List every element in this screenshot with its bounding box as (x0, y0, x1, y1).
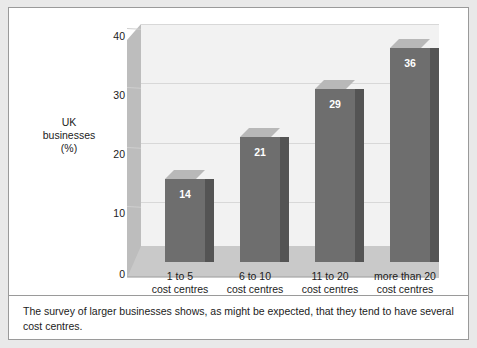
bar-top-face (315, 80, 355, 89)
bar-front-face (390, 48, 430, 262)
y-tick-label-20: 20 (101, 149, 125, 160)
plot-left-wall (127, 24, 141, 278)
bar-1-to-5[interactable]: 14 (165, 24, 205, 262)
bar-top-face (390, 39, 430, 48)
figure-container: UK businesses (%) 0 10 20 30 40 (0, 0, 477, 348)
y-tick-label-30: 30 (101, 90, 125, 101)
caption-divider (9, 295, 468, 296)
gridline-tick-40 (127, 28, 141, 30)
bar-top-face (165, 170, 205, 179)
bar-side-face (355, 89, 364, 262)
bar-chart: UK businesses (%) 0 10 20 30 40 (9, 8, 468, 295)
y-axis-title-line-2: businesses (31, 129, 107, 142)
bar-more-than-20[interactable]: 36 (390, 24, 430, 262)
bar-side-face (430, 48, 439, 262)
bar-6-to-10[interactable]: 21 (240, 24, 280, 262)
y-axis-title-line-1: UK (31, 116, 107, 129)
y-tick-label-10: 10 (101, 208, 125, 219)
y-tick-label-40: 40 (101, 31, 125, 42)
figure-frame: UK businesses (%) 0 10 20 30 40 (8, 7, 469, 340)
y-axis-title: UK businesses (%) (31, 116, 107, 155)
bar-11-to-20[interactable]: 29 (315, 24, 355, 262)
bar-value-label: 14 (165, 189, 205, 200)
y-tick-label-0: 0 (101, 269, 125, 280)
bar-side-face (280, 137, 289, 262)
bar-value-label: 29 (315, 99, 355, 110)
bar-value-label: 36 (390, 58, 430, 69)
y-axis-title-line-3: (%) (31, 142, 107, 155)
x-label-line-1: more than 20 (359, 270, 451, 283)
bar-top-face (240, 128, 280, 137)
caption-text: The survey of larger businesses shows, a… (23, 304, 455, 334)
x-label-more-than-20: more than 20 cost centres (359, 270, 451, 296)
bar-value-label: 21 (240, 147, 280, 158)
bar-front-face (315, 89, 355, 262)
bar-side-face (205, 179, 214, 262)
plot-area: 14 21 29 (127, 24, 439, 278)
